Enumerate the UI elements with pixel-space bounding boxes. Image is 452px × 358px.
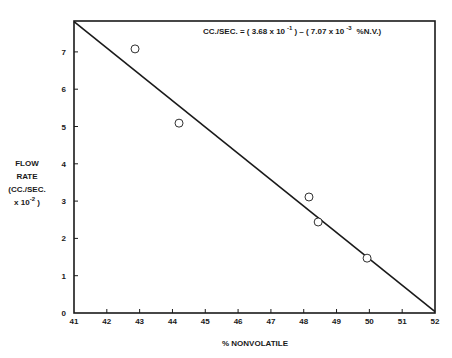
equation-lhs: CC./SEC. = ( 3.68 x 10 xyxy=(203,27,286,36)
x-tick-label: 51 xyxy=(398,317,407,326)
y-axis-title-line-1: FLOW xyxy=(15,159,39,168)
x-tick-label: 50 xyxy=(365,317,374,326)
y-axis-title: FLOW RATE (CC./SEC. x 10-2 ) xyxy=(8,159,45,207)
x-axis-ticks: 414243444546474849505152 xyxy=(70,309,440,326)
y-tick-label: 3 xyxy=(62,197,67,206)
data-point-marker xyxy=(363,254,371,262)
x-tick-label: 46 xyxy=(234,317,243,326)
x-tick-label: 43 xyxy=(135,317,144,326)
y-tick-label: 4 xyxy=(62,160,67,169)
x-tick-label: 41 xyxy=(70,317,79,326)
y-tick-label: 0 xyxy=(62,309,67,318)
data-point-marker xyxy=(314,218,322,226)
y-axis-title-line-2: RATE xyxy=(16,172,38,181)
x-tick-label: 49 xyxy=(332,317,341,326)
flow-rate-chart: 414243444546474849505152 01234567 CC./SE… xyxy=(0,0,452,358)
data-points xyxy=(131,45,371,262)
equation-mid: ) – ( 7.07 x 10 xyxy=(294,27,344,36)
data-point-marker xyxy=(175,119,183,127)
x-tick-label: 45 xyxy=(201,317,210,326)
y-axis-ticks: 01234567 xyxy=(62,48,78,318)
x-tick-label: 42 xyxy=(102,317,111,326)
x-axis-title: % NONVOLATILE xyxy=(222,339,289,348)
x-tick-label: 48 xyxy=(299,317,308,326)
y-axis-title-line-4: x 10-2 ) xyxy=(14,196,40,207)
regression-equation: CC./SEC. = ( 3.68 x 10-1) – ( 7.07 x 10-… xyxy=(203,25,381,36)
regression-line xyxy=(74,22,435,312)
equation-exponent-2: -3 xyxy=(346,25,352,31)
y-tick-label: 1 xyxy=(62,272,67,281)
x-tick-label: 52 xyxy=(431,317,440,326)
y-tick-label: 2 xyxy=(62,234,67,243)
x-tick-label: 44 xyxy=(168,317,177,326)
equation-exponent-1: -1 xyxy=(287,25,293,31)
equation-rhs: %N.V.) xyxy=(357,27,382,36)
y-axis-title-line-3: (CC./SEC. xyxy=(8,185,45,194)
y-tick-label: 5 xyxy=(62,123,67,132)
x-tick-label: 47 xyxy=(266,317,275,326)
y-tick-label: 6 xyxy=(62,85,67,94)
y-tick-label: 7 xyxy=(62,48,67,57)
data-point-marker xyxy=(305,193,313,201)
data-point-marker xyxy=(131,45,139,53)
